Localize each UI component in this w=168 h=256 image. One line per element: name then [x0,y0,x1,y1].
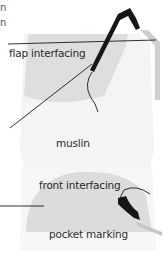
label-front-interfacing: front interfacing [39,179,121,191]
label-flap-interfacing: flap interfacing [9,47,85,59]
label-pocket-marking: pocket marking [49,228,128,240]
label-muslin: muslin [56,137,90,149]
cropped-text-fragment: n [0,17,6,28]
sewing-diagram: n n flap interfacing muslin front interf… [0,0,168,256]
diagram-illustration [0,0,168,256]
cropped-text-fragment: n [0,2,6,13]
